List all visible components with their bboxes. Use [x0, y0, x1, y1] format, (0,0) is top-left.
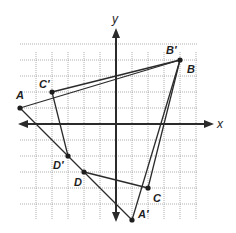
axes: x y	[18, 12, 224, 222]
y-axis-arrow-up-icon	[112, 28, 120, 38]
x-axis-label: x	[216, 117, 224, 131]
point-D	[81, 169, 86, 174]
coordinate-plane: x y ABB′C′D′DCA′	[0, 0, 236, 233]
grid-lines	[20, 44, 198, 220]
point-label-Bp: B′	[166, 44, 178, 56]
x-axis-arrow-left-icon	[18, 120, 28, 128]
point-C	[145, 185, 150, 190]
point-label-B: B	[187, 63, 195, 75]
point-Cp	[49, 89, 54, 94]
point-label-C: C	[153, 192, 162, 204]
point-label-A: A	[15, 89, 24, 101]
point-label-D: D	[74, 176, 82, 188]
x-axis-arrow-right-icon	[204, 120, 214, 128]
y-axis-label: y	[111, 12, 119, 26]
point-Dp	[65, 153, 70, 158]
y-axis-arrow-down-icon	[112, 212, 120, 222]
point-label-Ap: A′	[137, 208, 150, 220]
point-Ap	[129, 217, 134, 222]
point-label-Dp: D′	[53, 159, 65, 171]
point-label-Cp: C′	[39, 78, 51, 90]
point-B	[177, 57, 182, 62]
point-A	[17, 105, 22, 110]
